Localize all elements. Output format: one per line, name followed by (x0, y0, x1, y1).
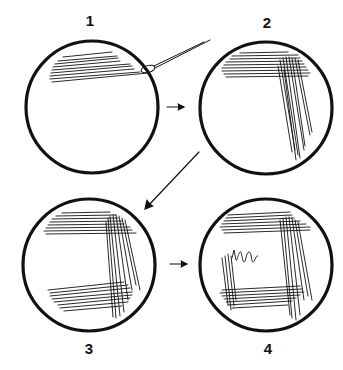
streak-plate-diagram (0, 0, 343, 370)
arrow-2-to-3 (145, 152, 199, 209)
streaks-3 (44, 212, 140, 318)
step-label-2: 2 (263, 14, 271, 31)
plate-2 (200, 42, 332, 174)
inoculating-loop (140, 40, 210, 74)
step-label-1: 1 (86, 12, 94, 29)
step-label-4: 4 (264, 340, 272, 357)
plate-3 (23, 199, 155, 331)
streaks-2 (222, 52, 312, 160)
plate-4 (200, 199, 332, 331)
streaks-4 (220, 212, 312, 320)
step-label-3: 3 (85, 340, 93, 357)
zigzag-streak (232, 250, 258, 262)
arrow-1-to-2 (167, 104, 184, 110)
arrow-3-to-4 (170, 261, 187, 267)
